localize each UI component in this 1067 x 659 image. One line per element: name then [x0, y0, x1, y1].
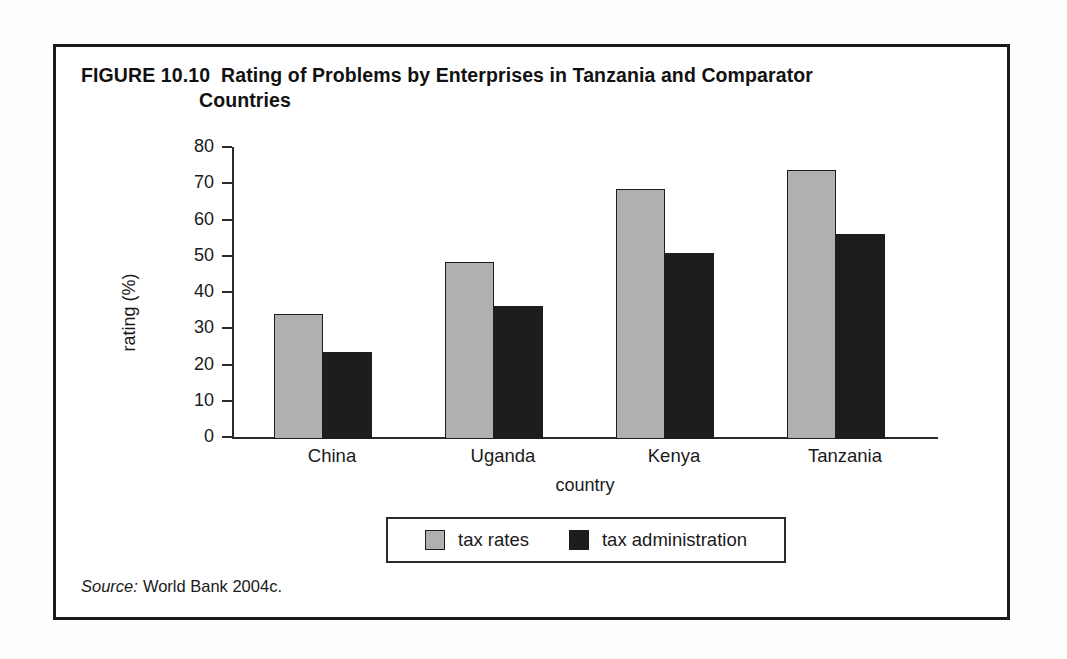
source-text: World Bank 2004c.: [143, 577, 282, 595]
x-axis-tick-label: China: [252, 445, 412, 467]
source-note: Source:World Bank 2004c.: [81, 577, 282, 596]
bar-tanzania-tax-administration: [836, 234, 885, 439]
y-axis-tick-label: 0: [152, 427, 214, 445]
bar-china-tax-administration: [323, 352, 372, 439]
bar-pair: [423, 147, 583, 439]
y-axis-tick-label: 60: [152, 210, 214, 228]
x-axis-tick-label: Kenya: [594, 445, 754, 467]
bar-pair: [252, 147, 412, 439]
y-axis-tick: [222, 436, 232, 438]
bar-group: Uganda: [423, 147, 583, 439]
source-word: Source:: [81, 577, 138, 595]
y-axis-tick: [222, 255, 232, 257]
bar-kenya-tax-administration: [665, 253, 714, 439]
bar-china-tax-rates: [274, 314, 323, 439]
legend-item-tax-administration: tax administration: [569, 529, 747, 551]
y-axis-tick: [222, 400, 232, 402]
x-axis-tick-label: Uganda: [423, 445, 583, 467]
bar-uganda-tax-rates: [445, 262, 494, 439]
bar-uganda-tax-administration: [494, 306, 543, 439]
legend-swatch-icon: [569, 530, 589, 550]
y-axis-tick: [222, 219, 232, 221]
y-axis-tick: [222, 291, 232, 293]
legend-item-tax-rates: tax rates: [425, 529, 529, 551]
y-axis-tick: [222, 364, 232, 366]
bar-pair: [594, 147, 754, 439]
y-axis-tick: [222, 146, 232, 148]
y-axis-tick-label: 50: [152, 246, 214, 264]
chart-legend: tax ratestax administration: [386, 517, 786, 563]
y-axis-line: [232, 147, 234, 439]
y-axis-tick-label: 70: [152, 173, 214, 191]
bar-pair: [765, 147, 925, 439]
bar-group: Kenya: [594, 147, 754, 439]
bar-tanzania-tax-rates: [787, 170, 836, 439]
y-axis-tick: [222, 327, 232, 329]
x-axis-label: country: [232, 475, 938, 496]
y-axis-tick-label: 30: [152, 318, 214, 336]
x-axis-tick-label: Tanzania: [765, 445, 925, 467]
y-axis-tick-label: 80: [152, 137, 214, 155]
legend-swatch-icon: [425, 530, 445, 550]
y-axis-tick: [222, 182, 232, 184]
figure-frame: FIGURE 10.10Rating of Problems by Enterp…: [53, 44, 1010, 620]
y-axis-tick-label: 20: [152, 355, 214, 373]
y-axis-tick-label: 10: [152, 391, 214, 409]
y-axis-tick-label: 40: [152, 282, 214, 300]
bar-kenya-tax-rates: [616, 189, 665, 439]
legend-label: tax administration: [602, 529, 747, 551]
bar-group: Tanzania: [765, 147, 925, 439]
y-axis-label: rating (%): [119, 233, 140, 393]
bar-group: China: [252, 147, 412, 439]
legend-label: tax rates: [458, 529, 529, 551]
